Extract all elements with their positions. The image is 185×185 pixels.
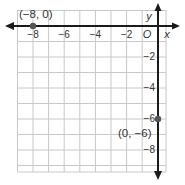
point-b-marker — [155, 116, 161, 122]
x-axis-left-arrow-icon — [5, 22, 14, 30]
x-tick-label: −8 — [27, 29, 39, 40]
coordinate-plane: −8 −6 −4 −2 O x y −2 −4 −6 −8 (−8, 0) (0… — [0, 0, 185, 185]
x-tick-label: −2 — [121, 29, 133, 40]
y-axis — [154, 3, 162, 180]
y-axis-label: y — [145, 10, 153, 22]
x-axis-label: x — [163, 28, 170, 40]
point-b-label: (0, −6) — [118, 127, 152, 139]
y-tick-label: −4 — [144, 82, 156, 93]
y-tick-label: −6 — [144, 113, 156, 124]
x-axis-right-arrow-icon — [172, 23, 180, 30]
origin-label: O — [143, 28, 152, 40]
y-tick-label: −2 — [144, 51, 156, 62]
x-tick-label: −4 — [90, 29, 102, 40]
y-axis-down-arrow-icon — [154, 171, 162, 180]
point-a-marker — [30, 23, 36, 29]
y-axis-up-arrow-icon — [155, 3, 162, 11]
point-a-label: (−8, 0) — [19, 8, 53, 20]
x-tick-label: −6 — [58, 29, 70, 40]
y-tick-label: −8 — [144, 144, 156, 155]
